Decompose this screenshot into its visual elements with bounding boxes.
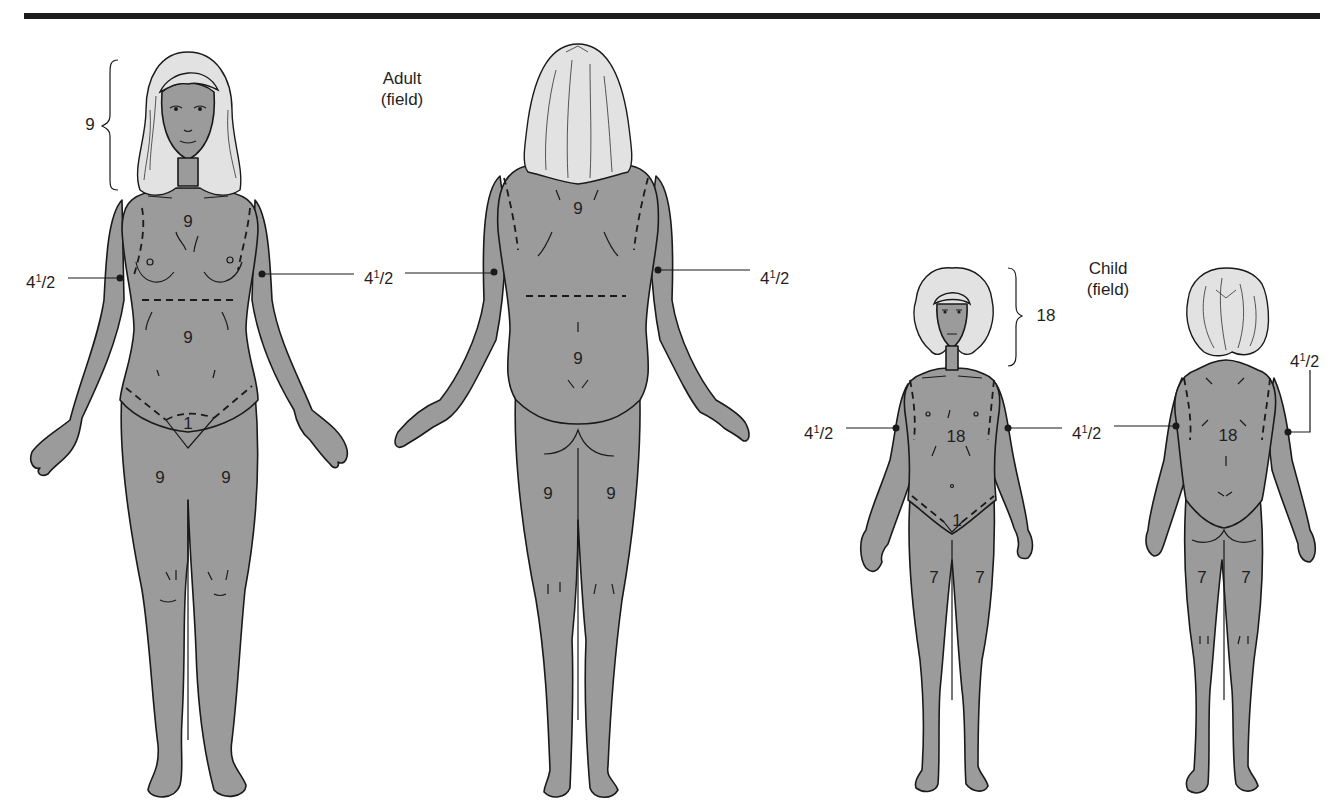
adult-front-genitalia-percent: 1: [183, 415, 192, 433]
child-front-right-leg-percent: 7: [975, 569, 984, 587]
adult-heading-line1: Adult: [362, 68, 442, 89]
body-figures-illustration: .skin { fill: #9b9b9b; stroke: #1a1a1a; …: [0, 0, 1342, 804]
adult-heading: Adult (field): [362, 68, 442, 110]
child-back-figure: [1114, 268, 1315, 793]
adult-front-abdomen-percent: 9: [183, 329, 192, 347]
adult-back-upper-percent: 9: [573, 200, 582, 218]
adult-back-lower-percent: 9: [573, 350, 582, 368]
child-front-trunk-percent: 18: [947, 428, 966, 446]
adult-front-chest-percent: 9: [183, 213, 192, 231]
child-front-genitalia-percent: 1: [952, 512, 961, 530]
adult-back-figure: [395, 44, 750, 797]
child-front-left-leg-percent: 7: [929, 569, 938, 587]
adult-front-right-leg-percent: 9: [221, 469, 230, 487]
child-front-head-percent: 18: [1037, 307, 1056, 325]
child-front-left-arm-percent: 41/2: [804, 419, 833, 444]
adult-back-right-leg-percent: 9: [606, 485, 615, 503]
child-heading-line2: (field): [1068, 279, 1148, 300]
child-back-trunk-percent: 18: [1219, 427, 1238, 445]
child-back-left-leg-percent: 7: [1197, 569, 1206, 587]
adult-front-left-arm-percent: 41/2: [26, 268, 55, 293]
adult-front-right-arm-percent: 41/2: [364, 264, 393, 289]
adult-back-left-leg-percent: 9: [543, 485, 552, 503]
child-back-right-leg-percent: 7: [1241, 569, 1250, 587]
child-front-right-arm-percent: 41/2: [1072, 419, 1101, 444]
child-heading-line1: Child: [1068, 258, 1148, 279]
adult-front-head-percent: 9: [85, 116, 94, 134]
adult-heading-line2: (field): [362, 89, 442, 110]
child-heading: Child (field): [1068, 258, 1148, 300]
adult-front-left-leg-percent: 9: [155, 469, 164, 487]
child-back-right-arm-percent: 41/2: [1290, 347, 1319, 372]
adult-back-right-arm-percent: 41/2: [760, 264, 789, 289]
